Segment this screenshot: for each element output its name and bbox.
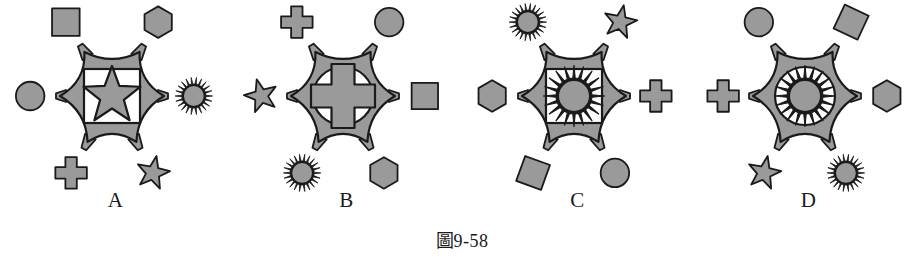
hexagon-icon [370, 157, 397, 189]
figure-d-drawing [693, 0, 924, 196]
figures-row [0, 0, 924, 200]
arm-top-left-square [52, 8, 80, 36]
circle-icon [16, 82, 45, 111]
square-icon [52, 8, 80, 36]
figure-d[interactable] [693, 0, 924, 200]
diamond-icon [516, 156, 550, 190]
figure-b[interactable] [231, 0, 462, 200]
arm-top-right-star [605, 5, 637, 38]
arm-bottom-right-circle [601, 159, 630, 188]
arm-top-right-diamond [834, 5, 869, 40]
arm-bottom-right-hexagon [370, 157, 397, 189]
arm-right-starburst [175, 77, 213, 114]
diamond-icon [834, 5, 869, 40]
hexagon-icon [145, 6, 172, 38]
arm-bottom-left-diamond [516, 156, 550, 190]
cross-icon [707, 80, 739, 112]
arm-right-diamond [412, 83, 438, 109]
arm-bottom-right-starburst [827, 154, 865, 191]
caption-number: 9-58 [454, 231, 489, 251]
arm-bottom-right-star [138, 156, 170, 189]
figure-label-a: A [0, 188, 231, 218]
figure-a-drawing [0, 0, 231, 196]
starburst-icon [291, 162, 313, 184]
figure-plate: A B C D 圖9-58 [0, 0, 924, 258]
starburst-icon [517, 11, 539, 33]
center-emblem [83, 66, 140, 123]
arm-right-hexagon [873, 80, 900, 112]
arm-bottom-left-starburst [283, 154, 321, 191]
arm-top-left-circle [745, 8, 774, 37]
hexagon-icon [873, 80, 900, 112]
figure-label-d: D [693, 188, 924, 218]
center-starburst-icon [558, 80, 590, 112]
arm-right-cross [640, 80, 672, 112]
star-icon [605, 5, 637, 38]
figure-labels-row: A B C D [0, 188, 924, 218]
arm-top-left-cross [281, 6, 313, 38]
figure-c-drawing [462, 0, 693, 196]
arm-top-left-starburst [509, 4, 547, 41]
figure-a[interactable] [0, 0, 231, 200]
circle-icon [375, 8, 404, 37]
arm-bottom-left-cross [55, 157, 87, 189]
star-icon [138, 156, 170, 189]
plate-caption: 圖9-58 [0, 226, 924, 252]
diamond-icon [412, 83, 438, 109]
arm-top-right-hexagon [145, 6, 172, 38]
arm-bottom-left-star [749, 156, 781, 189]
star-icon [749, 156, 781, 189]
arm-left-cross [707, 80, 739, 112]
hexagon-icon [479, 80, 506, 112]
figure-c[interactable] [462, 0, 693, 200]
figure-b-drawing [231, 0, 462, 196]
star-icon [244, 79, 276, 112]
cross-icon [640, 80, 672, 112]
arm-top-right-circle [375, 8, 404, 37]
figure-label-c: C [462, 188, 693, 218]
figure-label-b: B [231, 188, 462, 218]
circle-icon [745, 8, 774, 37]
arm-left-hexagon [479, 80, 506, 112]
caption-prefix: 圖 [436, 230, 454, 251]
starburst-icon [183, 85, 205, 107]
starburst-icon [835, 162, 857, 184]
cross-icon [281, 6, 313, 38]
center-starburst-icon [789, 80, 821, 112]
circle-icon [601, 159, 630, 188]
cross-icon [55, 157, 87, 189]
arm-left-star [244, 79, 276, 112]
center-emblem [543, 65, 605, 127]
arm-left-circle [16, 82, 45, 111]
